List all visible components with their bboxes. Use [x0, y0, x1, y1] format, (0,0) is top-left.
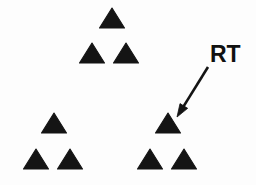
figure-canvas — [0, 0, 256, 185]
rt-annotation-label: RT — [210, 43, 241, 66]
figure-root: RT — [0, 0, 256, 185]
